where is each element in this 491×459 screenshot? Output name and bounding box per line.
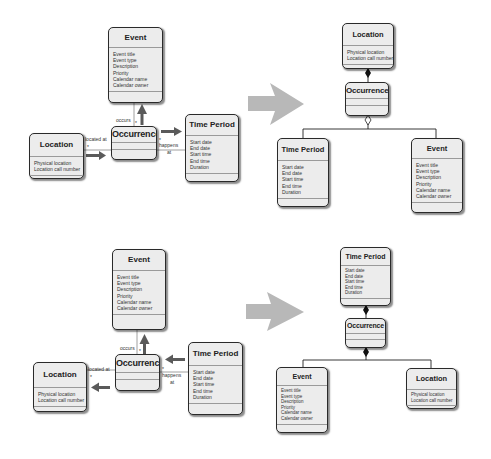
direction-arrow-right-icon (161, 127, 182, 136)
class-title: Location (343, 24, 393, 46)
divider (112, 143, 156, 150)
class-box-event[interactable]: Event Event title Event type Description… (108, 27, 163, 103)
class-box-time-period[interactable]: Time Period Start date End date Start ti… (340, 247, 391, 306)
multiplicity-label: * (135, 120, 137, 126)
association-label-occurs: occurs (116, 117, 131, 123)
divider (346, 334, 385, 340)
class-title: Occurrence (112, 127, 156, 143)
class-box-time-period[interactable]: Time Period Start date End date Start ti… (188, 342, 243, 415)
composition-diamond-icon (365, 68, 371, 78)
class-attributes: Start date End date Start time End time … (189, 366, 242, 404)
composition-diamond-icon (363, 347, 369, 357)
class-box-location[interactable]: Location Physical location Location call… (29, 133, 84, 179)
class-attributes: Start date End date Start time End time … (186, 136, 238, 174)
direction-arrow-up-icon (137, 104, 147, 125)
class-attributes: Physical location Location call number (34, 388, 86, 407)
multiplicity-label: * (90, 374, 92, 380)
class-box-event[interactable]: Event Event title Event type Description… (411, 138, 463, 213)
class-title: Location (30, 134, 83, 157)
class-box-occurrence[interactable]: Occurrence (111, 126, 157, 160)
class-title: Occurrence (116, 355, 159, 373)
association-label-at: at (167, 149, 171, 155)
multiplicity-label: * (139, 348, 141, 354)
attribute: Duration (190, 164, 235, 170)
class-title: Location (407, 369, 456, 390)
class-box-location[interactable]: Location Physical location Location call… (406, 368, 457, 409)
direction-arrow-left-icon (91, 383, 110, 393)
attribute: Location call number (34, 166, 80, 172)
divider (116, 373, 159, 380)
class-box-time-period[interactable]: Time Period Start date End date Start ti… (185, 114, 239, 182)
direction-arrow-left-icon (165, 355, 185, 365)
class-title: Event (113, 250, 165, 271)
class-title: Event (277, 368, 327, 386)
class-attributes: Physical location Location call number (343, 46, 393, 65)
class-title: Event (412, 139, 462, 159)
class-title: Location (34, 363, 86, 388)
class-box-occurrence[interactable]: Occurrence (345, 82, 389, 116)
transform-arrow-icon (246, 292, 304, 331)
class-box-time-period[interactable]: Time Period Start date End date Start ti… (277, 138, 329, 207)
association-label-happens: happens (162, 372, 181, 378)
attribute: Location call number (38, 397, 83, 403)
attribute: Location call number (411, 398, 453, 404)
class-title: Event (109, 28, 162, 48)
class-title: Occurrence (346, 83, 388, 99)
attribute: Calendar owner (113, 82, 159, 88)
class-attributes: Start date End date Start time End time … (341, 266, 390, 299)
class-box-occurrence[interactable]: Occurrence (115, 354, 160, 391)
class-attributes: Start date End date Start time End time … (278, 161, 328, 199)
direction-arrow-right-icon (86, 151, 106, 160)
class-title: Time Period (189, 343, 242, 366)
class-title: Occurrence (346, 319, 385, 334)
class-box-event[interactable]: Event Event title Event type Description… (112, 249, 166, 330)
attribute: Duration (193, 394, 239, 400)
attribute: Location call number (347, 55, 390, 61)
attribute: Calendar owner (281, 416, 324, 422)
association-label-located-at: located at (88, 366, 110, 372)
class-title: Time Period (341, 248, 390, 266)
attribute: Calendar owner (416, 193, 459, 199)
class-box-location[interactable]: Location Physical location Location call… (33, 362, 87, 412)
class-attributes: Event title Event type Description Prior… (109, 48, 162, 92)
association-label-happens: happens (159, 142, 178, 148)
composition-diamond-icon (363, 305, 369, 315)
association-label-occurs: occurs (120, 345, 135, 351)
attribute: Duration (345, 290, 387, 296)
class-title: Time Period (186, 115, 238, 136)
association-label-located-at: located at (85, 136, 107, 142)
class-box-location[interactable]: Location Physical location Location call… (342, 23, 394, 69)
aggregation-diamond-icon (365, 115, 371, 125)
association-label-at: at (170, 379, 174, 385)
class-box-occurrence[interactable]: Occurrence (345, 318, 386, 348)
class-attributes: Event title Event type Description Prior… (277, 386, 327, 425)
multiplicity-label: * (87, 144, 89, 150)
direction-arrow-up-icon (140, 334, 150, 354)
class-title: Time Period (278, 139, 328, 161)
attribute: Duration (282, 189, 325, 195)
divider (346, 99, 388, 106)
class-attributes: Physical location Location call number (30, 157, 83, 176)
class-attributes: Physical location Location call number (407, 390, 456, 406)
class-attributes: Event title Event type Description Prior… (113, 271, 165, 315)
class-box-event[interactable]: Event Event title Event type Description… (276, 367, 328, 433)
attribute: Calendar owner (117, 305, 162, 311)
transform-arrow-icon (248, 83, 304, 125)
class-attributes: Event title Event type Description Prior… (412, 159, 462, 203)
